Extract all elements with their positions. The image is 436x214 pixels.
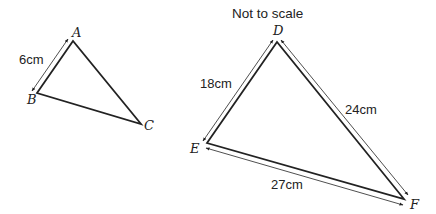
ab-length-label: 6cm <box>19 52 44 67</box>
df-length-label: 24cm <box>345 102 377 117</box>
vertex-a-label: A <box>71 25 81 40</box>
ef-dimension-arrow <box>206 148 403 205</box>
vertex-e-label: E <box>189 141 200 156</box>
vertex-b-label: B <box>26 92 37 107</box>
ef-length-label: 27cm <box>271 177 303 192</box>
vertex-d-label: D <box>272 23 284 38</box>
triangle-abc: A B C 6cm <box>19 25 154 133</box>
vertex-c-label: C <box>144 118 154 133</box>
similar-triangles-diagram: Not to scale A B C 6cm D E F 18cm 24cm 2… <box>0 0 436 214</box>
not-to-scale-note: Not to scale <box>232 6 303 21</box>
vertex-f-label: F <box>409 197 420 212</box>
de-length-label: 18cm <box>200 76 232 91</box>
df-dimension-arrow <box>281 40 408 195</box>
triangle-def: D E F 18cm 24cm 27cm <box>189 23 420 212</box>
